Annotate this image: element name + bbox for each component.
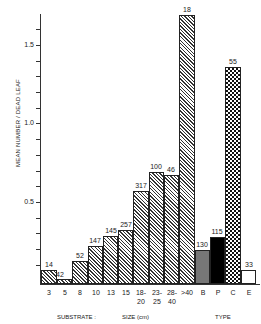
bar-C <box>225 67 241 284</box>
y-minor-tick <box>36 155 40 156</box>
x-label-line: 18- <box>136 289 146 296</box>
bar-n-label: 317 <box>126 182 156 189</box>
x-label: 8 <box>72 288 88 297</box>
x-label: >40 <box>179 288 195 297</box>
bar-n-label: 115 <box>202 228 232 235</box>
y-tick <box>36 45 40 46</box>
group-label-size: SIZE (cm) <box>122 314 149 320</box>
x-label: 13 <box>103 288 119 297</box>
y-minor-tick <box>36 249 40 250</box>
x-label-line: 40 <box>168 298 176 305</box>
x-label-line: 23- <box>152 289 162 296</box>
x-label-line: 25 <box>153 298 161 305</box>
x-label: 28-40 <box>164 288 180 306</box>
bar-n-label: 257 <box>111 221 141 228</box>
y-minor-tick <box>36 61 40 62</box>
bar-n-label: 145 <box>96 227 126 234</box>
bar-n-label: 42 <box>45 271 75 278</box>
y-minor-tick <box>36 171 40 172</box>
x-label: P <box>210 288 226 297</box>
x-label: E <box>241 288 257 297</box>
bar-n-label: 55 <box>218 58 248 65</box>
bar-n-label: 130 <box>187 241 217 248</box>
bar-28-40 <box>164 175 179 284</box>
y-minor-tick <box>36 233 40 234</box>
y-minor-tick <box>36 218 40 219</box>
y-tick <box>36 202 40 203</box>
bar-n-label: 18 <box>172 6 202 13</box>
y-minor-tick <box>36 186 40 187</box>
bar-n-label: 14 <box>34 261 64 268</box>
x-label: 10 <box>88 288 104 297</box>
bar-18-20 <box>133 191 149 284</box>
bar-n-label: 52 <box>65 252 95 259</box>
bar-n-label: 147 <box>80 237 110 244</box>
y-minor-tick <box>36 139 40 140</box>
x-label-line: 20 <box>137 298 145 305</box>
y-axis <box>40 14 41 284</box>
x-label: C <box>225 288 241 297</box>
y-minor-tick <box>36 76 40 77</box>
x-label: 5 <box>57 288 73 297</box>
x-label: 18-20 <box>133 288 149 306</box>
group-label-substrate: SUBSTRATE : <box>57 314 96 320</box>
y-minor-tick <box>36 92 40 93</box>
group-label-type: TYPE <box>215 314 231 320</box>
x-label-line: 28- <box>167 289 177 296</box>
x-label: 15 <box>118 288 134 297</box>
x-label: 23-25 <box>149 288 165 306</box>
bar-15 <box>118 230 133 284</box>
y-tick <box>36 123 40 124</box>
baseline <box>40 284 260 285</box>
bar-E <box>241 270 256 284</box>
y-tick-label: 0.5 <box>14 198 34 205</box>
y-tick-label: 1.5 <box>14 41 34 48</box>
y-tick-label: 1.0 <box>14 119 34 126</box>
y-minor-tick <box>36 29 40 30</box>
bar-n-label: 46 <box>156 166 186 173</box>
y-minor-tick <box>36 108 40 109</box>
bar-n-label: 33 <box>234 261 261 268</box>
bar-B <box>195 250 210 284</box>
x-label: 3 <box>41 288 57 297</box>
x-label: B <box>195 288 211 297</box>
